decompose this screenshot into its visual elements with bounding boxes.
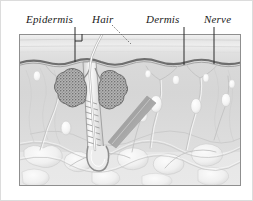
skin-cross-section-figure: Epidermis Hair Dermis Nerve [0,0,253,201]
skin-diagram-svg [0,0,253,201]
illustration-panel [19,12,241,188]
label-hair: Hair [92,13,114,25]
label-nerve: Nerve [204,13,231,25]
label-epidermis: Epidermis [26,13,73,25]
hair-bulb [87,146,109,171]
label-dermis: Dermis [146,13,180,25]
epidermis-layer [19,34,241,62]
